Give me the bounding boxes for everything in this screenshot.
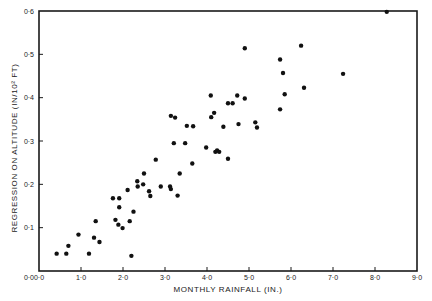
scatter-chart: 0·01·02·03·04·05·06·07·08·09·0 0·00·10·2…: [0, 0, 432, 301]
data-point: [142, 171, 146, 175]
data-point: [131, 209, 135, 213]
data-point: [128, 219, 132, 223]
data-point: [125, 188, 129, 192]
data-point: [243, 46, 247, 50]
y-tick-label: 0·6: [24, 8, 34, 15]
data-point: [76, 232, 80, 236]
plot-frame: [39, 11, 417, 271]
data-point: [66, 244, 70, 248]
data-points: [54, 10, 389, 258]
y-tick-label: 0·0: [24, 274, 34, 281]
data-point: [230, 101, 234, 105]
data-point: [141, 182, 145, 186]
data-point: [175, 193, 179, 197]
x-tick-label: 6·0: [286, 274, 296, 281]
data-point: [64, 251, 68, 255]
y-axis-label: REGRESSION ON ALTITUDE (IN/10² FT): [10, 63, 19, 232]
x-tick-label: 7·0: [328, 274, 338, 281]
data-point: [191, 124, 195, 128]
data-point: [94, 219, 98, 223]
data-point: [117, 205, 121, 209]
y-tick-label: 0·4: [24, 94, 34, 101]
x-tick-label: 3·0: [160, 274, 170, 281]
data-point: [209, 93, 213, 97]
data-point: [87, 251, 91, 255]
chart-canvas: 0·01·02·03·04·05·06·07·08·09·0 0·00·10·2…: [0, 0, 432, 301]
data-point: [226, 157, 230, 161]
data-point: [92, 235, 96, 239]
data-point: [253, 120, 257, 124]
data-point: [172, 141, 176, 145]
x-tick-label: 8·0: [370, 274, 380, 281]
data-point: [278, 57, 282, 61]
data-point: [169, 187, 173, 191]
data-point: [178, 171, 182, 175]
data-point: [299, 43, 303, 47]
data-point: [147, 189, 151, 193]
data-point: [217, 150, 221, 154]
data-point: [111, 196, 115, 200]
data-point: [116, 222, 120, 226]
data-point: [341, 72, 345, 76]
y-tick-label: 0·1: [24, 224, 34, 231]
data-point: [183, 141, 187, 145]
data-point: [255, 125, 259, 129]
data-point: [235, 93, 239, 97]
data-point: [159, 184, 163, 188]
data-point: [190, 161, 194, 165]
data-point: [302, 86, 306, 90]
x-tick-label: 2·0: [118, 274, 128, 281]
data-point: [173, 115, 177, 119]
x-tick-label: 0·0: [34, 274, 44, 281]
data-point: [54, 251, 58, 255]
data-point: [120, 226, 124, 230]
data-point: [278, 107, 282, 111]
data-point: [129, 254, 133, 258]
data-point: [221, 125, 225, 129]
data-point: [117, 196, 121, 200]
data-point: [283, 92, 287, 96]
y-tick-label: 0·2: [24, 181, 34, 188]
data-point: [169, 114, 173, 118]
y-tick-label: 0·5: [24, 51, 34, 58]
x-axis-ticks: 0·01·02·03·04·05·06·07·08·09·0: [34, 267, 422, 281]
data-point: [212, 111, 216, 115]
data-point: [148, 194, 152, 198]
y-axis-ticks: 0·00·10·20·30·40·50·6: [24, 8, 43, 282]
data-point: [185, 124, 189, 128]
data-point: [226, 101, 230, 105]
data-point: [113, 218, 117, 222]
data-point: [154, 157, 158, 161]
data-point: [97, 240, 101, 244]
data-point: [204, 145, 208, 149]
x-tick-label: 4·0: [202, 274, 212, 281]
x-tick-label: 1·0: [76, 274, 86, 281]
data-point: [385, 10, 389, 14]
data-point: [136, 184, 140, 188]
data-point: [243, 96, 247, 100]
data-point: [135, 179, 139, 183]
data-point: [236, 122, 240, 126]
y-tick-label: 0·3: [24, 138, 34, 145]
data-point: [209, 115, 213, 119]
x-tick-label: 9·0: [412, 274, 422, 281]
x-tick-label: 5·0: [244, 274, 254, 281]
data-point: [281, 71, 285, 75]
x-axis-label: MONTHLY RAINFALL (IN.): [173, 285, 282, 294]
